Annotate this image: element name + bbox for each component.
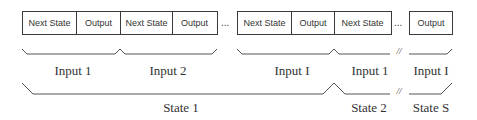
- input-label-2: Input 2: [149, 63, 186, 79]
- state-label-2: State 2: [351, 100, 387, 116]
- input-label-5: Input I: [413, 63, 448, 79]
- state-label-s: State S: [413, 100, 449, 116]
- input-label-4: Input 1: [351, 63, 388, 79]
- break-mark-1: //: [396, 46, 401, 56]
- brace-lines: [0, 0, 477, 120]
- state-label-1: State 1: [163, 100, 199, 116]
- input-label-1: Input 1: [54, 63, 91, 79]
- input-label-3: Input I: [274, 63, 309, 79]
- break-mark-2: //: [396, 86, 401, 96]
